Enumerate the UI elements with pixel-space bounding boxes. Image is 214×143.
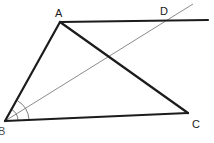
- figure-canvas: [0, 0, 214, 143]
- vertex-label-c: C: [192, 119, 200, 130]
- segment-bc: [5, 113, 188, 121]
- segment-ba: [5, 22, 60, 121]
- segment-ad-extended: [60, 20, 208, 22]
- vertex-label-a: A: [55, 8, 62, 19]
- segment-ac: [60, 22, 188, 113]
- geometry-figure: A D C B: [0, 0, 214, 143]
- vertex-label-b: B: [0, 126, 5, 137]
- vertex-label-d: D: [160, 6, 168, 17]
